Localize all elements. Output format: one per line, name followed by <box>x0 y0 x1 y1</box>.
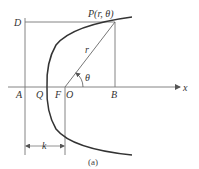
label-k: k <box>42 140 47 151</box>
label-r: r <box>85 44 89 55</box>
label-p: P(r, θ) <box>87 8 114 20</box>
parabola-curve <box>47 17 132 155</box>
label-theta: θ <box>85 72 90 83</box>
label-q: Q <box>36 89 44 100</box>
figure-caption: (a) <box>88 157 98 167</box>
label-b: B <box>111 89 117 100</box>
label-d: D <box>13 17 22 28</box>
label-x-axis: x <box>182 82 188 93</box>
theta-arc <box>76 73 83 87</box>
label-o: O <box>66 89 73 100</box>
label-a: A <box>15 89 23 100</box>
parabola-diagram: P(r, θ) D r θ A Q F O B x k (a) <box>0 0 199 169</box>
label-f: F <box>54 89 62 100</box>
